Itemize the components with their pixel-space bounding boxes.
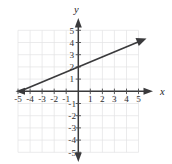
x-tick-label: 1 bbox=[88, 94, 93, 104]
y-tick-label: 2 bbox=[70, 62, 75, 72]
y-tick-label: 5 bbox=[70, 26, 75, 36]
y-tick-label: -5 bbox=[68, 148, 76, 158]
x-tick-label: -2 bbox=[50, 94, 58, 104]
y-tick-label: 1 bbox=[70, 74, 75, 84]
plotted-line-series bbox=[20, 38, 147, 91]
x-axis bbox=[16, 88, 154, 95]
x-tick-label: -3 bbox=[38, 94, 46, 104]
x-axis-label: x bbox=[159, 86, 165, 97]
y-tick-label: 3 bbox=[70, 50, 75, 60]
coordinate-plane-figure: -5 -4 -3 -2 -1 1 2 3 4 5 5 4 3 2 1 -1 -2… bbox=[0, 0, 172, 164]
x-tick-label: 5 bbox=[136, 94, 141, 104]
y-tick-label: 4 bbox=[70, 38, 75, 48]
y-tick-label: -4 bbox=[68, 135, 76, 145]
y-tick-label: -2 bbox=[68, 111, 76, 121]
x-axis-arrow-right bbox=[144, 88, 154, 95]
y-tick-label: -3 bbox=[68, 123, 76, 133]
x-tick-label: 4 bbox=[124, 94, 129, 104]
y-axis-arrow-top bbox=[75, 18, 82, 28]
x-tick-label: -5 bbox=[14, 94, 22, 104]
x-tick-label: 2 bbox=[100, 94, 105, 104]
y-tick-label: -1 bbox=[68, 99, 76, 109]
y-axis-label: y bbox=[73, 4, 79, 15]
x-tick-label: -4 bbox=[26, 94, 34, 104]
graph-canvas: -5 -4 -3 -2 -1 1 2 3 4 5 5 4 3 2 1 -1 -2… bbox=[0, 0, 172, 164]
x-tick-label: 3 bbox=[112, 94, 117, 104]
